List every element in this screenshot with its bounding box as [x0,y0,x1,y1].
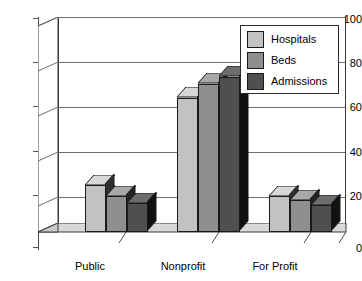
legend: Hospitals Beds Admissions [240,25,339,94]
legend-label-beds: Beds [271,54,296,67]
bar-front-face [269,196,290,232]
bar-nonprofit-beds [198,26,219,232]
legend-swatch-beds [247,52,264,69]
bar-front-face [198,84,219,232]
bar-front-face [311,205,332,232]
legend-label-admissions: Admissions [271,75,327,88]
x-axis-label-nonprofit: Nonprofit [148,261,218,272]
bar-side-shape [147,192,158,232]
bar-nonprofit-admissions [219,26,240,232]
bar-nonprofit-hospitals [177,26,198,232]
gridline [58,17,345,18]
bar-public-admissions [127,26,148,232]
bar-front-face [127,203,148,232]
bar-side-shape [331,194,342,232]
bar-front-face [85,185,106,232]
category-separator-ticks [38,232,348,252]
bar-public-hospitals [85,26,106,232]
bar-public-beds [106,26,127,232]
bar-front-face [290,200,311,232]
chart-root: 100 80 60 40 20 0 [0,0,362,281]
bar-front-face [177,98,198,232]
x-axis-label-public: Public [55,261,125,272]
bar-front-face [106,196,127,232]
legend-label-hospitals: Hospitals [271,33,316,46]
gridline-perspective-connectors [38,17,60,233]
x-axis-label-forprofit: For Profit [240,261,310,272]
legend-swatch-admissions [247,73,264,90]
legend-swatch-hospitals [247,31,264,48]
bar-front-face [219,77,240,232]
